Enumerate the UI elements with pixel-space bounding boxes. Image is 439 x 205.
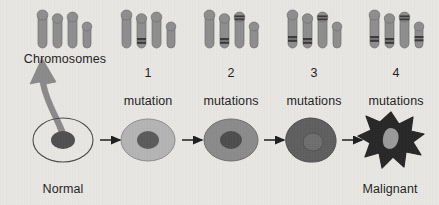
chromosome (302, 14, 312, 48)
cell-stage-1 (121, 119, 175, 161)
mutation-band (288, 36, 297, 38)
label-2-mutations-word: mutations (190, 94, 272, 108)
chromosome (287, 10, 298, 48)
label-3-mutations-count: 3 (273, 66, 355, 80)
mutation-band (137, 38, 146, 40)
chromosome (219, 14, 229, 48)
chromosome (399, 12, 410, 48)
label-4-mutations: 4 mutations (355, 52, 437, 122)
nucleus (303, 133, 323, 151)
chromosome (317, 12, 328, 48)
mutation-band (415, 39, 424, 41)
chromosome (37, 10, 48, 48)
chromosome (249, 22, 259, 48)
mutation-band (370, 40, 379, 42)
chromosome (414, 22, 424, 48)
mutation-band (385, 38, 394, 40)
chromosome (369, 10, 380, 48)
label-3-mutations-word: mutations (273, 94, 355, 108)
label-normal-cell-line1: Normal (18, 182, 108, 196)
label-3-mutations: 3 mutations (273, 52, 355, 122)
mutation-band (220, 42, 229, 44)
mutation-band (370, 36, 379, 38)
nucleus (137, 131, 159, 149)
chromosome-group-2-mutations (204, 10, 259, 48)
mutation-band (235, 18, 245, 20)
cell-normal (33, 118, 93, 162)
mutation-band (400, 18, 410, 20)
chromosome (234, 12, 245, 48)
chromosomes-callout-arrow (30, 58, 68, 141)
mutation-band (235, 15, 245, 17)
mutation-band (415, 36, 424, 38)
mutation-band (303, 42, 312, 44)
chromosome-group-chromosomes (37, 10, 92, 48)
cell-stage-2 (204, 119, 258, 161)
chromosome (151, 12, 162, 48)
chromosome-group-4-mutations (369, 10, 424, 48)
chromosome (52, 14, 62, 48)
mutation-band (385, 42, 394, 44)
chromosome (136, 14, 146, 48)
label-4-mutations-count: 4 (355, 66, 437, 80)
chromosome (166, 22, 176, 48)
mutation-band (318, 15, 328, 17)
label-1-mutation-word: mutation (108, 94, 188, 108)
label-malignant-cell: Malignant cell (341, 168, 439, 205)
chromosome (67, 12, 78, 48)
cancer-progression-diagram: Chromosomes 1 mutation 2 mutations 3 mut… (0, 0, 439, 205)
mutation-band (220, 38, 229, 40)
label-malignant-cell-line1: Malignant (341, 182, 439, 196)
mutation-band (137, 42, 146, 44)
mutation-band (303, 38, 312, 40)
chromosome (82, 22, 92, 48)
chromosome (384, 14, 394, 48)
chromosome (121, 10, 132, 48)
label-1-mutation-count: 1 (108, 66, 188, 80)
mutation-band (288, 40, 297, 42)
chromosome (332, 22, 342, 48)
label-normal-cell: Normal cell (18, 168, 108, 205)
cell-stage-3 (286, 118, 336, 162)
mutation-band (318, 18, 328, 20)
nucleus (220, 131, 242, 149)
chromosome (204, 10, 215, 48)
label-1-mutation: 1 mutation (108, 52, 188, 122)
label-2-mutations: 2 mutations (190, 52, 272, 122)
chromosome-group-3-mutations (287, 10, 342, 48)
label-2-mutations-count: 2 (190, 66, 272, 80)
chromosome-group-1-mutation (121, 10, 176, 48)
mutation-band (400, 15, 410, 17)
nucleus (51, 131, 75, 149)
label-4-mutations-word: mutations (355, 94, 437, 108)
